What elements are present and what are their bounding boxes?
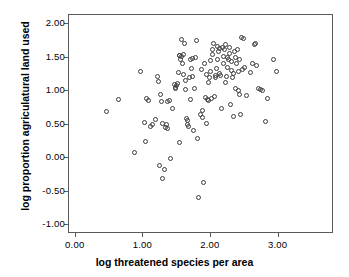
data-point [208,58,213,63]
data-point [248,70,253,75]
data-point [190,74,195,79]
x-axis-tick [278,233,279,237]
data-point [191,128,196,133]
data-point [155,74,160,79]
data-point [162,167,167,172]
x-axis-tick-label: 0.00 [55,239,95,250]
data-point [219,106,224,111]
data-point [167,98,172,103]
data-point [157,163,162,168]
data-point [200,108,205,113]
data-point [204,121,209,126]
data-point [195,136,200,141]
data-point [237,57,242,62]
data-point [116,97,121,102]
x-axis-title: log threatened species per area [0,256,349,268]
data-point [183,87,188,92]
data-point [253,41,258,46]
data-point [170,106,175,111]
data-point [263,119,268,124]
data-point [160,176,165,181]
data-point [192,86,197,91]
data-point [104,109,109,114]
data-point [274,69,279,74]
data-point [146,98,151,103]
x-axis-tick-label: 1.00 [122,239,162,250]
data-point [254,63,259,68]
data-points-layer [69,15,332,232]
data-point [237,92,242,97]
x-axis-tick-label: 3.00 [258,239,298,250]
data-point [218,73,223,78]
scatter-plot-figure: 0.001.002.003.00 2.001.501.000.500.00-0.… [0,0,349,277]
data-point [150,122,155,127]
data-point [194,38,199,43]
data-point [238,112,243,117]
data-point [182,41,187,46]
data-point [231,71,236,76]
data-point [153,117,158,122]
data-point [215,57,220,62]
data-point [207,75,212,80]
y-axis-title: log proportion agriculatural land used [19,0,31,236]
data-point [231,114,236,119]
data-point [132,150,137,155]
data-point [202,61,207,66]
data-point [181,72,186,77]
data-point [158,92,163,97]
data-point [199,67,204,72]
data-point [210,52,215,57]
data-point [228,102,233,107]
data-point [223,80,228,85]
data-point [181,52,186,57]
data-point [188,97,193,102]
data-point [196,195,201,200]
data-point [235,47,240,52]
data-point [143,139,148,144]
data-point [142,120,147,125]
data-point [242,65,247,70]
data-point [189,66,194,71]
data-point [234,61,239,66]
data-point [206,80,211,85]
data-point [201,180,206,185]
data-point [176,70,181,75]
x-axis-tick [142,233,143,237]
data-point [156,79,161,84]
data-point [212,94,217,99]
data-point [138,69,143,74]
data-point [165,126,170,131]
data-point [224,74,229,79]
x-axis-tick [75,233,76,237]
plot-area [68,14,333,233]
x-axis-tick [210,233,211,237]
data-point [177,140,182,145]
data-point [200,115,205,120]
data-point [180,61,185,66]
data-point [241,36,246,41]
data-point [193,55,198,60]
data-point [227,45,232,50]
data-point [260,88,265,93]
data-point [271,57,276,62]
data-point [265,96,270,101]
data-point [168,156,173,161]
data-point [185,118,190,123]
x-axis-tick-label: 2.00 [190,239,230,250]
data-point [159,99,164,104]
data-point [244,93,249,98]
